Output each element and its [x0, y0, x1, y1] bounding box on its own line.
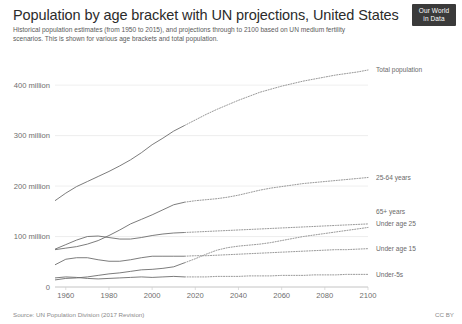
series-line-historical — [55, 202, 185, 249]
series-label-under-age-15[interactable]: Under age 15 — [376, 245, 416, 253]
series-line-historical — [55, 276, 185, 279]
chart-plot-area: 0100 million200 million300 million400 mi… — [0, 0, 462, 324]
chart-page: Population by age bracket with UN projec… — [0, 0, 462, 324]
x-axis-tick-label: 2000 — [144, 291, 161, 300]
source-note: Source: UN Population Division (2017 Rev… — [13, 311, 144, 318]
y-axis-tick-label: 0 — [46, 283, 50, 292]
series-line-projection — [185, 227, 368, 262]
x-axis-tick-label: 1980 — [101, 291, 118, 300]
line-chart-svg: 0100 million200 million300 million400 mi… — [0, 0, 462, 324]
y-axis-tick-label: 100 million — [14, 232, 50, 241]
y-axis-tick-label: 200 million — [14, 182, 50, 191]
series-line-historical — [55, 256, 185, 265]
series-label-under-age-25[interactable]: Under age 25 — [376, 220, 416, 228]
series-label-25-64-years[interactable]: 25-64 years — [376, 174, 412, 182]
series-line-projection — [185, 177, 368, 202]
series-label-65-years[interactable]: 65+ years — [376, 208, 406, 216]
x-axis-tick-label: 2040 — [230, 291, 247, 300]
series-label-total-population[interactable]: Total population — [376, 66, 423, 74]
series-line-projection — [185, 70, 368, 126]
license-note[interactable]: CC BY — [435, 311, 454, 318]
x-axis-tick-label: 2020 — [187, 291, 204, 300]
series-label-under-5s[interactable]: Under-5s — [376, 271, 404, 278]
x-axis-tick-label: 2080 — [316, 291, 333, 300]
x-axis-tick-label: 1960 — [57, 291, 74, 300]
series-line-historical — [55, 126, 185, 201]
x-axis-tick-label: 2100 — [360, 291, 377, 300]
x-axis-tick-label: 2060 — [273, 291, 290, 300]
series-line-projection — [185, 274, 368, 277]
y-axis-tick-label: 400 million — [14, 81, 50, 90]
y-axis-tick-label: 300 million — [14, 131, 50, 140]
